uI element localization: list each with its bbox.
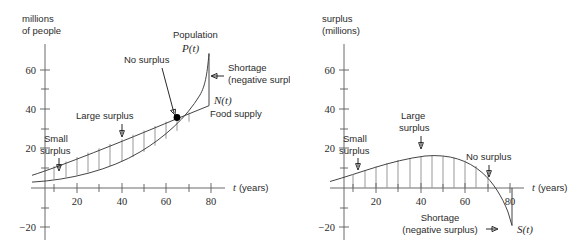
left-ytick-20: 20 <box>26 143 37 154</box>
right-large-surplus-arrow-icon <box>419 136 424 149</box>
chart-panel-population-food: 60 40 20 −20 20 40 60 80 millions of peo… <box>0 0 290 247</box>
right-ytick-20: 20 <box>325 143 336 154</box>
right-no-surplus-arrow-icon <box>487 165 492 177</box>
left-ytick-60: 60 <box>26 65 37 76</box>
left-ytick-40: 40 <box>26 104 37 115</box>
left-yaxis-title-line1: millions <box>22 13 54 24</box>
left-label-population-symbol: P(t) <box>181 42 199 55</box>
left-shortage-arrow-icon <box>211 73 224 78</box>
right-label-shortage-line2: (negative surplus) <box>402 224 478 235</box>
right-xtick-80: 80 <box>505 196 516 207</box>
left-label-population: Population <box>173 29 218 40</box>
left-label-small-surplus-line2: surplus <box>40 145 71 156</box>
left-label-shortage-line1: Shortage <box>228 62 267 73</box>
chart-panel-surplus: 60 40 20 −20 20 40 60 80 surplus (millio… <box>290 0 577 247</box>
left-xtick-60: 60 <box>161 196 172 207</box>
right-label-large-surplus-line1: Large <box>401 110 425 121</box>
left-xaxis-title: t(years) <box>233 182 268 193</box>
left-xtick-20: 20 <box>72 196 83 207</box>
right-label-large-surplus-line2: surplus <box>399 122 430 133</box>
right-xtick-40: 40 <box>416 196 427 207</box>
left-ytick-neg20: −20 <box>20 222 36 233</box>
left-xtick-80: 80 <box>206 196 217 207</box>
right-ytick-60: 60 <box>325 65 336 76</box>
left-label-shortage-line2: (negative surplus) <box>228 74 290 85</box>
left-small-surplus-arrow-icon <box>57 158 62 171</box>
right-xaxis-title: t(years) <box>532 182 567 193</box>
right-label-small-surplus-line1: Small <box>343 133 367 144</box>
right-ytick-neg20: −20 <box>319 222 335 233</box>
right-small-surplus-arrow-icon <box>356 158 361 170</box>
right-label-small-surplus-line2: surplus <box>339 145 370 156</box>
left-label-no-surplus: No surplus <box>124 54 170 65</box>
right-label-no-surplus: No surplus <box>466 151 512 162</box>
left-label-small-surplus-line1: Small <box>44 133 68 144</box>
left-xtick-40: 40 <box>117 196 128 207</box>
right-xtick-20: 20 <box>371 196 382 207</box>
left-label-food-symbol: N(t) <box>213 94 232 107</box>
left-yaxis-title-line2: of people <box>22 25 61 36</box>
left-label-food-supply: Food supply <box>210 108 262 119</box>
right-shortage-arrow-icon <box>486 226 498 231</box>
right-yaxis-title-line2: (millions) <box>322 25 360 36</box>
left-large-surplus-arrow-icon <box>120 124 125 137</box>
right-chart-svg: 60 40 20 −20 20 40 60 80 surplus (millio… <box>290 0 577 247</box>
right-label-shortage-line1: Shortage <box>421 212 460 223</box>
left-label-large-surplus: Large surplus <box>76 110 134 121</box>
figure-container: 60 40 20 −20 20 40 60 80 millions of peo… <box>0 0 577 247</box>
right-label-surplus-symbol: S(t) <box>517 223 533 236</box>
right-xtick-60: 60 <box>460 196 471 207</box>
right-yaxis-title-line1: surplus <box>322 13 353 24</box>
right-ytick-40: 40 <box>325 104 336 115</box>
left-chart-svg: 60 40 20 −20 20 40 60 80 millions of peo… <box>0 0 290 247</box>
left-no-surplus-arrow-icon <box>162 68 176 115</box>
